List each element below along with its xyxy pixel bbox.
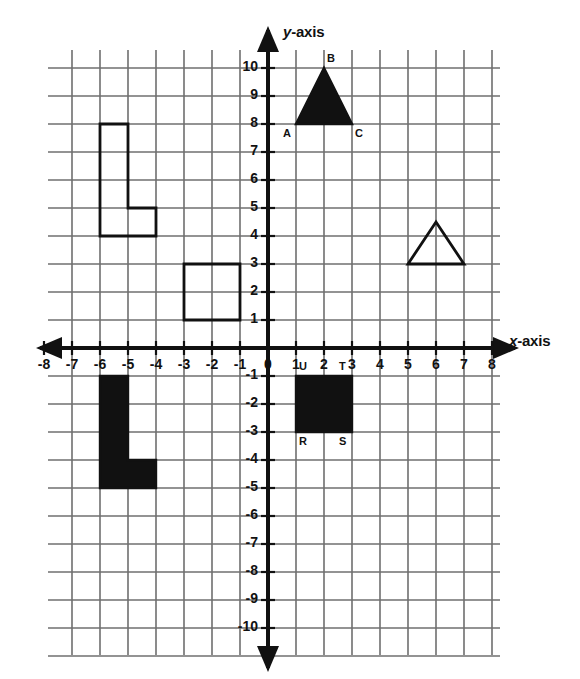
- x-tick-label--8: -8: [30, 356, 58, 372]
- y-tick-label-8: 8: [222, 114, 258, 130]
- coordinate-plane-figure: x-axis y-axis -8-7-6-5-4-3-2-10123456781…: [0, 0, 580, 679]
- y-tick-label-7: 7: [222, 142, 258, 158]
- y-tick-label--5: -5: [222, 478, 258, 494]
- x-tick-label--7: -7: [58, 356, 86, 372]
- y-axis-label: y-axis: [283, 23, 324, 40]
- y-tick-label-10: 10: [222, 58, 258, 74]
- y-axis-label-var: y: [283, 23, 291, 40]
- x-tick-label--6: -6: [86, 356, 114, 372]
- x-tick-label--4: -4: [142, 356, 170, 372]
- vertex-label-U: U: [299, 360, 307, 372]
- plotted-shapes: [100, 68, 464, 488]
- plot-canvas: [0, 0, 580, 679]
- y-axis-arrow-down: [257, 646, 279, 672]
- y-tick-label--1: -1: [222, 366, 258, 382]
- y-tick-label--4: -4: [222, 450, 258, 466]
- vertex-label-C: C: [355, 127, 363, 139]
- y-tick-label--3: -3: [222, 422, 258, 438]
- x-axis-label: x-axis: [509, 332, 550, 349]
- grid-lines: [48, 50, 500, 656]
- y-tick-label-3: 3: [222, 254, 258, 270]
- shape-rectangle-rstu: [296, 376, 352, 432]
- vertex-label-A: A: [283, 127, 291, 139]
- y-tick-label-2: 2: [222, 282, 258, 298]
- y-tick-label-5: 5: [222, 198, 258, 214]
- y-tick-label--2: -2: [222, 394, 258, 410]
- x-tick-label-5: 5: [394, 356, 422, 372]
- vertex-label-R: R: [299, 435, 307, 447]
- x-tick-label--5: -5: [114, 356, 142, 372]
- y-tick-label--10: -10: [222, 618, 258, 634]
- y-tick-label-1: 1: [222, 310, 258, 326]
- x-tick-label-0: 0: [254, 356, 282, 372]
- x-tick-label--3: -3: [170, 356, 198, 372]
- y-tick-label-9: 9: [222, 86, 258, 102]
- x-tick-label-6: 6: [422, 356, 450, 372]
- x-axis-label-rest: -axis: [517, 332, 550, 349]
- x-tick-label-4: 4: [366, 356, 394, 372]
- y-tick-label--6: -6: [222, 506, 258, 522]
- vertex-label-B: B: [327, 52, 335, 64]
- y-tick-label-6: 6: [222, 170, 258, 186]
- vertex-label-S: S: [339, 435, 346, 447]
- y-axis-label-rest: -axis: [291, 23, 324, 40]
- y-axis-arrow-up: [257, 26, 279, 52]
- x-tick-label-8: 8: [478, 356, 506, 372]
- y-tick-label--8: -8: [222, 562, 258, 578]
- y-tick-label--9: -9: [222, 590, 258, 606]
- x-tick-label-7: 7: [450, 356, 478, 372]
- vertex-label-T: T: [339, 360, 346, 372]
- y-tick-label-4: 4: [222, 226, 258, 242]
- x-axis-label-var: x: [509, 332, 517, 349]
- x-tick-label-2: 2: [310, 356, 338, 372]
- y-tick-label--7: -7: [222, 534, 258, 550]
